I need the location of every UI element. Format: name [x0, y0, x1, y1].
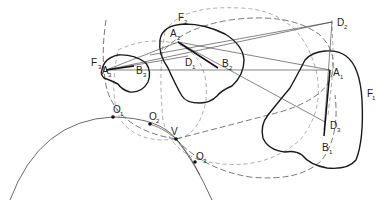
segment-a3-b3: [106, 66, 134, 70]
svg-text:F: F: [91, 57, 97, 68]
svg-text:3: 3: [203, 158, 207, 164]
point-O2: [148, 122, 152, 126]
dashed-circle-large: [160, 18, 333, 139]
svg-text:B: B: [322, 142, 329, 153]
point-V: [174, 137, 178, 141]
label-V: V: [171, 126, 178, 137]
geometry-diagram: F3 F2 F1 A3 B3 A2 B2 D1 D2 A1 D3 B1 O1 O…: [0, 0, 376, 207]
svg-text:3: 3: [143, 72, 147, 78]
svg-text:A: A: [333, 67, 340, 78]
label-A1: A1: [333, 67, 344, 80]
svg-text:1: 1: [372, 95, 376, 101]
svg-text:2: 2: [177, 35, 181, 41]
svg-text:1: 1: [329, 149, 333, 155]
label-O3: O3: [196, 151, 207, 164]
svg-text:A: A: [170, 28, 177, 39]
line-a2-d3: [178, 42, 325, 122]
dashed-circle-mid: [161, 8, 318, 165]
svg-text:2: 2: [344, 24, 348, 30]
svg-text:2: 2: [156, 118, 160, 124]
dashed-circle-lower: [176, 95, 336, 178]
svg-text:3: 3: [108, 72, 112, 78]
label-D1: D1: [185, 57, 196, 70]
svg-text:V: V: [171, 126, 178, 137]
label-A3: A3: [102, 65, 112, 78]
figure-F1: [262, 51, 362, 168]
label-D2: D2: [337, 17, 348, 30]
dashed-circle-left-vertical: [103, 20, 176, 139]
label-B1: B1: [322, 142, 333, 155]
line-a3-d2: [106, 22, 332, 70]
label-F1: F1: [367, 88, 376, 101]
svg-text:3: 3: [337, 127, 341, 133]
svg-text:1: 1: [192, 64, 196, 70]
svg-text:B: B: [136, 65, 143, 76]
label-D3: D3: [330, 120, 341, 133]
point-O1: [111, 115, 115, 119]
label-F3: F3: [91, 57, 102, 70]
locus-arc: [10, 117, 212, 200]
label-A2: A2: [170, 28, 181, 41]
svg-text:B: B: [222, 58, 229, 69]
label-B3: B3: [136, 65, 147, 78]
svg-text:1: 1: [340, 74, 344, 80]
